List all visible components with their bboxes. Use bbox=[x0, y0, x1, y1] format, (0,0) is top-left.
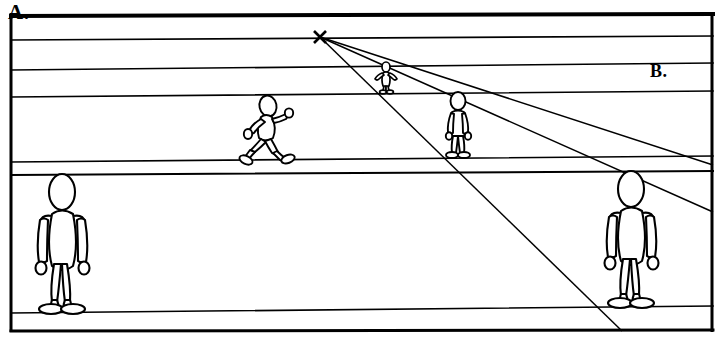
line-1-top-thick bbox=[11, 14, 713, 16]
figure-leg-left bbox=[452, 136, 458, 153]
figure-foot-left bbox=[39, 304, 63, 314]
figure-foot-left bbox=[446, 152, 458, 158]
figure-arm-right bbox=[77, 219, 87, 263]
figure-foot-right bbox=[61, 304, 85, 314]
figure-head bbox=[382, 62, 390, 72]
figure-head bbox=[49, 174, 75, 210]
figure-foot-right bbox=[630, 298, 654, 308]
line-8-bottom-thick bbox=[11, 330, 713, 331]
figure-hand-left bbox=[446, 132, 452, 140]
figure-arm-right bbox=[646, 216, 656, 258]
figure-leg-right bbox=[631, 259, 639, 296]
figure-arm-left bbox=[38, 219, 48, 263]
figure-torso bbox=[49, 211, 76, 271]
figure-torso bbox=[618, 208, 645, 266]
panel-label-a: A. bbox=[8, 0, 29, 25]
figure-head bbox=[618, 171, 644, 207]
figure-leg-right bbox=[458, 136, 464, 153]
figure-hand-right bbox=[465, 132, 471, 140]
figure-hand-left bbox=[605, 257, 616, 270]
figure-hand-back bbox=[244, 129, 252, 139]
figure-head bbox=[451, 92, 466, 110]
figure-foot-right bbox=[458, 152, 470, 158]
panel-label-b: B. bbox=[650, 61, 668, 82]
figure-hand-right bbox=[79, 262, 90, 275]
figure-hand-left bbox=[36, 262, 47, 275]
figure-hand-front bbox=[285, 108, 293, 117]
figure-foot-right bbox=[387, 90, 394, 94]
perspective-diagram-canvas bbox=[0, 0, 723, 337]
figure-hand-right bbox=[648, 257, 659, 270]
figure-arm-left bbox=[607, 216, 617, 258]
figure-foot-left bbox=[608, 298, 632, 308]
diagram-svg bbox=[0, 0, 723, 337]
figure-foot-left bbox=[380, 90, 387, 94]
